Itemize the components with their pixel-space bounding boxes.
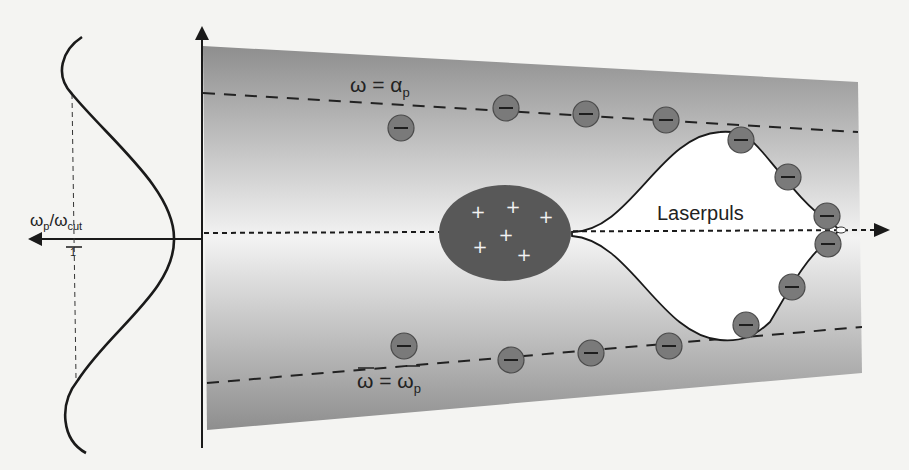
ion-plus-symbol: + bbox=[498, 224, 513, 245]
profile-axis-arrow-icon bbox=[28, 232, 42, 246]
profile-tick-label: 1 bbox=[70, 246, 76, 258]
laser-direction-arrow-icon bbox=[874, 223, 890, 237]
electron bbox=[733, 312, 759, 338]
ion-plus-symbol: + bbox=[470, 201, 485, 222]
upper-boundary-label: ω = αp bbox=[350, 73, 410, 100]
electron bbox=[388, 115, 414, 141]
density-profile-curve bbox=[62, 37, 174, 453]
electron bbox=[728, 127, 754, 153]
diagram: ωp/ωcut 1 ω = αp ω = ωp Laserpuls ++++++ bbox=[0, 0, 909, 470]
electron bbox=[391, 333, 417, 359]
electron bbox=[573, 101, 599, 127]
laser-pulse-spot bbox=[836, 227, 846, 233]
electron bbox=[779, 274, 805, 300]
electron bbox=[814, 203, 840, 229]
electron bbox=[498, 347, 524, 373]
vertical-axis-arrow-icon bbox=[195, 26, 209, 40]
ion-plus-symbol: + bbox=[472, 236, 487, 257]
ion-plus-symbol: + bbox=[505, 196, 520, 217]
lower-boundary-label: ω = ωp bbox=[357, 369, 421, 396]
electron bbox=[815, 231, 841, 257]
electron bbox=[493, 95, 519, 121]
profile-axis-label: ωp/ωcut bbox=[30, 211, 82, 232]
ion-plus-symbol: + bbox=[538, 206, 553, 227]
unity-marker-line bbox=[72, 94, 76, 378]
electron bbox=[656, 333, 682, 359]
laser-pulse-label: Laserpuls bbox=[657, 202, 744, 224]
electron bbox=[578, 340, 604, 366]
electron bbox=[775, 164, 801, 190]
electron bbox=[653, 107, 679, 133]
ion-plus-symbol: + bbox=[516, 244, 531, 265]
